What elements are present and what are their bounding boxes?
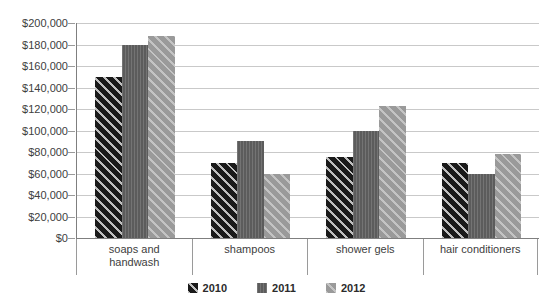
bar-group [77,23,193,238]
y-axis-tick-label: $20,000 [28,211,68,222]
y-axis-tick-mark [68,66,75,67]
y-axis-tick-mark [68,195,75,196]
bar-group [424,23,540,238]
y-axis-tick-label: $160,000 [22,61,68,72]
plot-area [76,23,539,239]
legend-swatch-icon [326,283,336,293]
y-axis-tick-mark [68,217,75,218]
bar-2012-shower-gels[interactable] [379,106,406,238]
legend-swatch-icon [257,283,267,293]
bar-group [308,23,424,238]
y-axis-tick-mark [68,174,75,175]
y-axis-tick-mark [68,23,75,24]
chart-legend: 201020112012 [0,279,553,297]
bar-chart: $0$20,000$40,000$60,000$80,000$100,000$1… [0,0,553,303]
legend-label: 2011 [272,283,296,294]
bar-2011-shower-gels[interactable] [353,131,380,239]
bar-2010-shampoos[interactable] [211,163,238,238]
legend-item-2011[interactable]: 2011 [257,283,296,294]
bar-2010-shower-gels[interactable] [326,157,353,238]
legend-label: 2010 [203,283,227,294]
bar-2010-hair-conditioners[interactable] [442,163,469,238]
bar-2012-shampoos[interactable] [264,174,291,239]
bar-2012-soaps-and-handwash[interactable] [148,36,175,238]
bar-2011-soaps-and-handwash[interactable] [122,45,149,239]
y-axis-tick-label: $180,000 [22,39,68,50]
category-axis-cell: soaps and handwash [76,239,192,275]
category-axis-cell: hair conditioners [423,239,539,275]
y-axis-tick-mark [68,152,75,153]
bar-series-container [77,23,539,238]
y-axis-tick-label: $0 [56,233,68,244]
y-axis-tick-mark [68,131,75,132]
y-axis-tick-label: $100,000 [22,125,68,136]
y-axis-tick-label: $80,000 [28,147,68,158]
category-axis-label: hair conditioners [440,243,521,256]
y-axis-tick-marks [68,0,76,303]
category-axis-label: soaps and handwash [85,243,183,269]
legend-item-2012[interactable]: 2012 [326,283,365,294]
category-axis-label: shampoos [224,243,275,256]
legend-item-2010[interactable]: 2010 [188,283,227,294]
y-axis-tick-mark [68,238,75,239]
bar-2010-soaps-and-handwash[interactable] [95,77,122,238]
y-axis-tick-label: $120,000 [22,104,68,115]
y-axis-tick-label: $40,000 [28,190,68,201]
legend-swatch-icon [188,283,198,293]
category-axis-label: shower gels [336,243,395,256]
y-axis-tick-label: $200,000 [22,18,68,29]
y-axis-tick-label: $60,000 [28,168,68,179]
bar-group [193,23,309,238]
category-axis-cell: shampoos [192,239,308,275]
y-axis-tick-mark [68,88,75,89]
category-axis-cell: shower gels [307,239,423,275]
y-axis-tick-mark [68,45,75,46]
y-axis-tick-label: $140,000 [22,82,68,93]
legend-label: 2012 [341,283,365,294]
bar-2012-hair-conditioners[interactable] [495,154,522,238]
y-axis-labels: $0$20,000$40,000$60,000$80,000$100,000$1… [0,0,68,303]
bar-2011-shampoos[interactable] [237,141,264,238]
bar-2011-hair-conditioners[interactable] [468,174,495,239]
y-axis-tick-mark [68,109,75,110]
category-axis: soaps and handwashshampoosshower gelshai… [76,239,539,275]
